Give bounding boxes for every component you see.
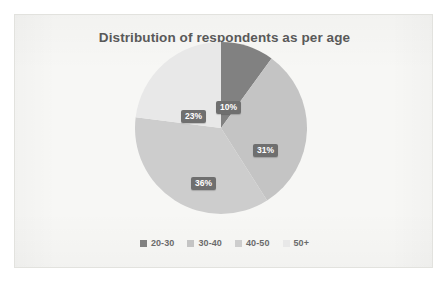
legend-label: 20-30 [151, 238, 175, 248]
legend-swatch-icon [235, 240, 242, 247]
pie-slice-50plus[interactable] [136, 42, 221, 128]
legend-swatch-icon [187, 240, 194, 247]
pie-chart-plot-area: 10% 31% 36% 23% 20-3030-4040-5050+ [15, 15, 434, 269]
legend-label: 30-40 [198, 238, 222, 248]
legend-swatch-icon [283, 240, 290, 247]
chart-legend: 20-3030-4040-5050+ [15, 238, 434, 248]
legend-label: 40-50 [246, 238, 270, 248]
legend-item-50plus[interactable]: 50+ [283, 238, 310, 248]
legend-item-30-40[interactable]: 30-40 [187, 238, 222, 248]
pie-slice-group [135, 42, 307, 214]
legend-swatch-icon [140, 240, 147, 247]
legend-item-20-30[interactable]: 20-30 [140, 238, 175, 248]
pie-chart-graphic [135, 42, 307, 214]
chart-card: Distribution of respondents as per age 1… [14, 14, 433, 268]
slice-label-20-30: 10% [216, 101, 241, 114]
legend-label: 50+ [294, 238, 310, 248]
slice-label-50plus: 23% [181, 110, 206, 123]
slice-label-30-40: 31% [253, 144, 278, 157]
legend-item-40-50[interactable]: 40-50 [235, 238, 270, 248]
slice-label-40-50: 36% [191, 177, 216, 190]
